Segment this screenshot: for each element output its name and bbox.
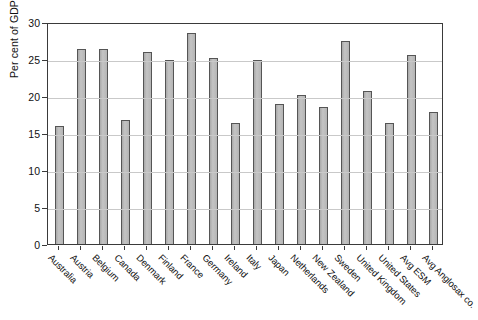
bars-layer	[48, 24, 442, 244]
y-tick-label: 5	[14, 202, 40, 214]
gridline	[48, 98, 442, 99]
x-tick-mark	[168, 246, 169, 250]
bar	[231, 123, 240, 244]
x-tick-mark	[80, 246, 81, 250]
y-tick-label: 20	[14, 91, 40, 103]
bar	[143, 52, 152, 244]
x-tick-mark	[124, 246, 125, 250]
x-tick-mark	[300, 246, 301, 250]
gridline	[48, 209, 442, 210]
plot-area	[47, 23, 443, 245]
bar	[319, 107, 328, 244]
x-tick-mark	[388, 246, 389, 250]
y-tick-mark	[42, 208, 47, 209]
y-axis-title: Per cent of GDP	[8, 0, 20, 78]
y-tick-mark	[42, 171, 47, 172]
y-tick-mark	[42, 97, 47, 98]
y-tick-mark	[42, 23, 47, 24]
x-tick-mark	[102, 246, 103, 250]
bar	[165, 60, 174, 244]
bar	[385, 123, 394, 244]
bar	[253, 60, 262, 244]
bar	[121, 120, 130, 244]
x-tick-mark	[190, 246, 191, 250]
x-tick-mark	[344, 246, 345, 250]
gridline	[48, 135, 442, 136]
bar	[77, 49, 86, 244]
y-tick-label: 30	[14, 17, 40, 29]
y-tick-mark	[42, 134, 47, 135]
bar	[363, 91, 372, 244]
x-tick-mark	[212, 246, 213, 250]
x-tick-mark	[234, 246, 235, 250]
y-tick-label: 15	[14, 128, 40, 140]
bar	[99, 49, 108, 244]
x-tick-mark	[146, 246, 147, 250]
x-tick-mark	[256, 246, 257, 250]
bar	[297, 95, 306, 244]
x-tick-label: Japan	[266, 252, 292, 278]
y-tick-label: 10	[14, 165, 40, 177]
gridline	[48, 61, 442, 62]
y-tick-mark	[42, 60, 47, 61]
y-tick-mark	[42, 245, 47, 246]
bar	[407, 55, 416, 244]
x-tick-mark	[410, 246, 411, 250]
y-tick-label: 25	[14, 54, 40, 66]
x-tick-mark	[432, 246, 433, 250]
bar	[341, 41, 350, 245]
x-tick-mark	[366, 246, 367, 250]
y-tick-label: 0	[14, 239, 40, 251]
bar	[187, 33, 196, 244]
gridline	[48, 172, 442, 173]
x-tick-mark	[278, 246, 279, 250]
bar	[275, 104, 284, 244]
bar	[429, 112, 438, 244]
x-tick-mark	[322, 246, 323, 250]
bar	[55, 126, 64, 244]
bar	[209, 58, 218, 244]
x-tick-mark	[58, 246, 59, 250]
